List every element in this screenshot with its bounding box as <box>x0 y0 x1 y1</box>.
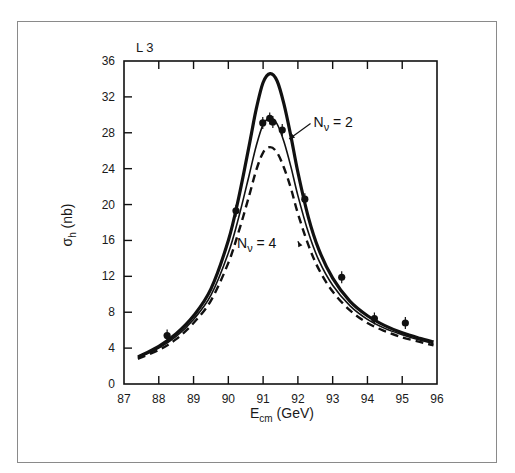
theory-curves <box>138 74 434 359</box>
y-tick-label: 36 <box>102 54 116 68</box>
x-tick-label: 90 <box>222 392 236 406</box>
data-point <box>232 207 239 214</box>
y-tick-label: 8 <box>108 305 115 319</box>
y-tick-label: 32 <box>102 90 116 104</box>
arrowhead-icon <box>298 241 303 247</box>
y-tick-label: 16 <box>102 233 116 247</box>
data-point <box>279 126 286 133</box>
data-point <box>269 118 276 125</box>
y-tick-label: 28 <box>102 126 116 140</box>
y-tick-label: 4 <box>108 341 115 355</box>
x-tick-label: 96 <box>430 392 444 406</box>
cross-section-chart: 8788899091929394959604812162024283236 Nν… <box>0 0 515 473</box>
data-point <box>164 332 171 339</box>
curve-thick-solid <box>138 74 434 358</box>
x-tick-label: 93 <box>326 392 340 406</box>
svg-text:Ecm (GeV): Ecm (GeV) <box>250 405 314 424</box>
y-axis-title: σh (nb) <box>59 204 78 247</box>
curve-thin-solid <box>138 118 434 358</box>
curve-annotation: Nν = 2 <box>314 114 354 133</box>
y-tick-label: 24 <box>102 162 116 176</box>
data-point <box>402 319 409 326</box>
plot-area-border <box>124 61 437 384</box>
y-tick-label: 0 <box>108 377 115 391</box>
data-point <box>338 274 345 281</box>
x-tick-label: 88 <box>152 392 166 406</box>
data-point <box>301 196 308 203</box>
data-point <box>371 315 378 322</box>
experiment-label: L 3 <box>136 40 154 55</box>
y-tick-label: 12 <box>102 269 116 283</box>
x-tick-label: 94 <box>361 392 375 406</box>
x-tick-label: 91 <box>256 392 270 406</box>
x-tick-label: 89 <box>187 392 201 406</box>
svg-text:σh (nb): σh (nb) <box>59 204 78 247</box>
y-tick-label: 20 <box>102 198 116 212</box>
x-tick-label: 92 <box>291 392 305 406</box>
data-point <box>259 119 266 126</box>
x-axis-title: Ecm (GeV) <box>250 405 314 424</box>
curve-annotation: Nν = 4 <box>237 235 277 254</box>
x-tick-label: 87 <box>117 392 131 406</box>
x-tick-label: 95 <box>396 392 410 406</box>
